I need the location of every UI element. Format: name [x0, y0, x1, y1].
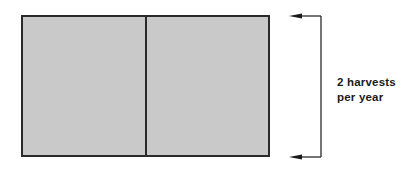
annotation-line-2: per year: [337, 90, 396, 105]
field-plot-right: [145, 17, 269, 155]
field-rectangle: [21, 15, 270, 157]
field-plot-left: [23, 17, 145, 155]
harvest-annotation: 2 harvests per year: [337, 75, 396, 105]
arrowhead-top-icon: [289, 14, 302, 19]
arrowhead-bottom-icon: [289, 155, 302, 160]
annotation-line-1: 2 harvests: [337, 75, 396, 90]
